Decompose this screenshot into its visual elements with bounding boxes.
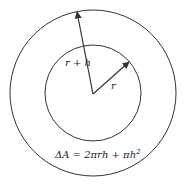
- annulus-diagram: [0, 0, 185, 189]
- formula-main: ΔA = 2πrh + πh: [55, 149, 136, 160]
- outer-radius-label: r + h: [65, 58, 91, 68]
- inner-radius-label: r: [111, 81, 116, 91]
- area-formula: ΔA = 2πrh + πh2: [55, 149, 141, 160]
- outer-radius-arrow: [77, 12, 93, 94]
- formula-exponent: 2: [136, 148, 140, 156]
